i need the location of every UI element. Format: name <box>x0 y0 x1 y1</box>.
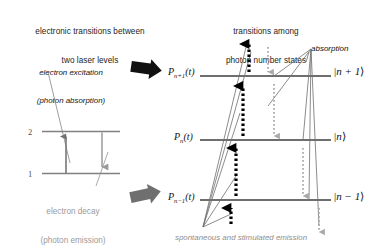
figure-canvas: electronic transitions between two laser… <box>0 0 378 252</box>
photon-number-state-diagram <box>200 44 331 232</box>
abs-fan-line-1 <box>274 49 311 76</box>
connector-arrow-bottom <box>128 181 162 207</box>
excitation-leader-line <box>48 72 70 163</box>
connector-arrow-top <box>130 57 163 81</box>
left-level-diagram <box>42 72 120 186</box>
diagram-graphics <box>0 0 378 252</box>
